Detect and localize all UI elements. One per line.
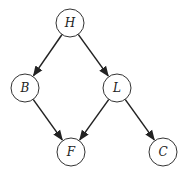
node-H: H	[56, 9, 84, 37]
node-label: C	[158, 145, 167, 159]
graph-svg: HBLFC	[0, 0, 189, 178]
node-label: B	[20, 81, 30, 95]
edge-L-C-arrow	[125, 99, 154, 139]
node-label: H	[64, 16, 76, 30]
node-C: C	[149, 138, 177, 166]
edge-H-B-arrow	[34, 35, 62, 76]
node-label: F	[66, 145, 76, 159]
node-B: B	[11, 74, 39, 102]
nodes-group: HBLFC	[11, 9, 177, 166]
edge-B-F-arrow	[33, 99, 62, 139]
node-L: L	[103, 74, 131, 102]
edge-H-L-arrow	[78, 34, 108, 75]
node-F: F	[57, 138, 85, 166]
edge-L-F-arrow	[80, 99, 109, 139]
edges-group	[33, 34, 154, 139]
node-label: L	[112, 81, 121, 95]
diagram-canvas: HBLFC	[0, 0, 189, 178]
